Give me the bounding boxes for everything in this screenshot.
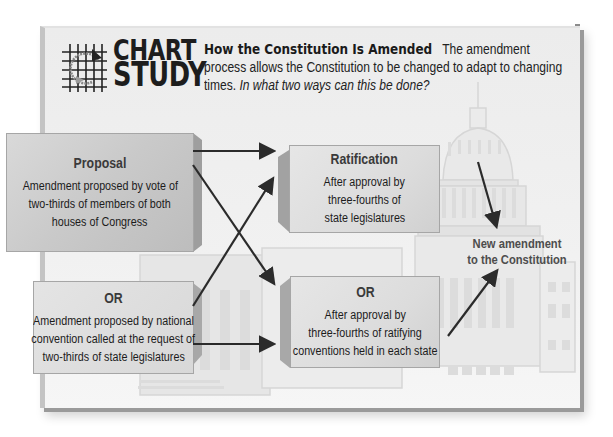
- arrow-conventions-to-amendment: [448, 272, 496, 336]
- arrow-legislatures-to-amendment: [478, 162, 496, 225]
- flow-arrows: [0, 0, 613, 437]
- arrow-congress-to-conventions: [193, 165, 273, 282]
- arrow-convention-to-legislatures: [193, 180, 272, 306]
